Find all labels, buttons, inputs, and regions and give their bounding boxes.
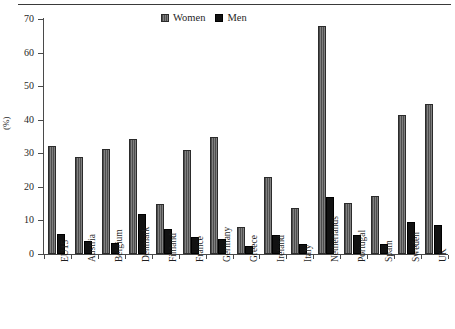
y-tick-30 bbox=[38, 153, 43, 154]
x-tick-austria bbox=[71, 255, 72, 259]
y-tick-label-30: 30 bbox=[4, 148, 34, 158]
category-label-belgium: Belgium bbox=[115, 229, 125, 262]
category-label-netherlands: Netherlands bbox=[331, 216, 341, 262]
bar-italy-women bbox=[291, 208, 299, 254]
bar-sweden-women bbox=[398, 115, 406, 254]
x-tick-ireland bbox=[259, 255, 260, 259]
y-tick-0 bbox=[38, 254, 43, 255]
bar-belgium-women bbox=[102, 149, 110, 254]
y-tick-label-60: 60 bbox=[4, 48, 34, 58]
bar-netherlands-women bbox=[318, 26, 326, 254]
category-label-ireland: Ireland bbox=[277, 235, 287, 262]
x-tick-italy bbox=[286, 255, 287, 259]
x-tick-eu15 bbox=[44, 255, 45, 259]
x-tick-belgium bbox=[98, 255, 99, 259]
y-tick-label-0: 0 bbox=[4, 249, 34, 259]
category-label-germany: Germany bbox=[223, 227, 233, 262]
bar-denmark-women bbox=[129, 139, 137, 254]
y-tick-70 bbox=[38, 19, 43, 20]
category-label-finland: Finland bbox=[169, 233, 179, 262]
bar-france-women bbox=[183, 150, 191, 254]
category-label-austria: Austria bbox=[88, 234, 98, 262]
x-tick-greece bbox=[233, 255, 234, 259]
y-tick-label-20: 20 bbox=[4, 182, 34, 192]
category-label-spain: Spain bbox=[385, 240, 395, 262]
y-tick-40 bbox=[38, 120, 43, 121]
y-tick-label-40: 40 bbox=[4, 115, 34, 125]
bar-germany-women bbox=[210, 137, 218, 254]
chart-figure: Women Men (%) 010203040506070 EU15Austri… bbox=[0, 0, 455, 329]
y-tick-60 bbox=[38, 53, 43, 54]
x-tick-finland bbox=[152, 255, 153, 259]
category-label-italy: Italy bbox=[304, 245, 314, 262]
y-tick-label-10: 10 bbox=[4, 215, 34, 225]
category-label-eu15: EU15 bbox=[61, 240, 71, 262]
category-label-denmark: Denmark bbox=[142, 227, 152, 262]
bar-portugal-women bbox=[344, 203, 352, 254]
bar-greece-women bbox=[237, 227, 245, 254]
category-label-france: France bbox=[196, 236, 206, 262]
bar-eu15-women bbox=[48, 146, 56, 254]
x-tick-france bbox=[179, 255, 180, 259]
category-label-portugal: Portugal bbox=[358, 230, 368, 262]
bar-finland-women bbox=[156, 204, 164, 254]
x-tick-germany bbox=[206, 255, 207, 259]
header-divider bbox=[18, 4, 451, 5]
y-tick-label-70: 70 bbox=[4, 14, 34, 24]
bar-spain-women bbox=[371, 196, 379, 254]
x-tick-denmark bbox=[125, 255, 126, 259]
category-label-greece: Greece bbox=[250, 235, 260, 262]
bar-austria-women bbox=[75, 157, 83, 254]
bar-uk-women bbox=[425, 104, 433, 254]
y-tick-10 bbox=[38, 220, 43, 221]
category-label-sweden: Sweden bbox=[412, 232, 422, 262]
plot-area bbox=[44, 19, 448, 254]
category-label-uk: UK bbox=[439, 248, 449, 262]
y-tick-50 bbox=[38, 86, 43, 87]
bar-ireland-women bbox=[264, 177, 272, 254]
y-tick-20 bbox=[38, 187, 43, 188]
y-tick-label-50: 50 bbox=[4, 81, 34, 91]
